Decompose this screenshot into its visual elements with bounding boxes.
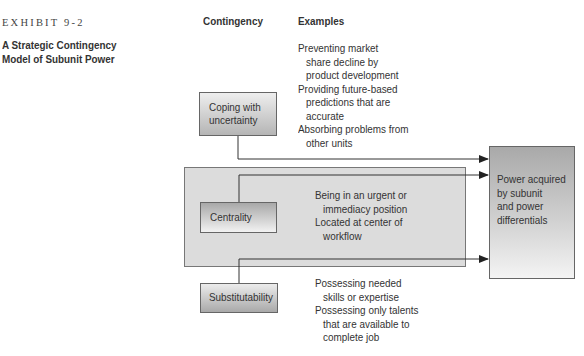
outcome-label: and power: [497, 200, 566, 214]
example-line: share decline by: [298, 56, 409, 70]
example-line: Absorbing problems from: [298, 123, 409, 137]
examples-coping: Preventing market share decline by produ…: [298, 42, 409, 150]
example-line: Possessing needed: [315, 277, 418, 291]
example-line: workflow: [315, 230, 407, 244]
example-line: other units: [298, 137, 409, 151]
contingency-label: uncertainty: [209, 114, 261, 128]
example-line: Preventing market: [298, 42, 409, 56]
contingency-label: Centrality: [210, 211, 252, 225]
example-line: complete job: [315, 331, 418, 345]
outcome-label: by subunit: [497, 187, 566, 201]
example-line: Possessing only talents: [315, 304, 418, 318]
contingency-box-coping: Coping with uncertainty: [199, 92, 277, 136]
example-line: accurate: [298, 110, 409, 124]
contingency-box-substitutability: Substitutability: [200, 283, 278, 313]
outcome-box-power: Power acquired by subunit and power diff…: [489, 146, 575, 279]
example-line: that are available to: [315, 318, 418, 332]
examples-substitutability: Possessing needed skills or expertise Po…: [315, 277, 418, 345]
contingency-box-centrality: Centrality: [200, 202, 277, 233]
example-line: immediacy position: [315, 203, 407, 217]
example-line: product development: [298, 69, 409, 83]
examples-centrality: Being in an urgent or immediacy position…: [315, 189, 407, 243]
example-line: Located at center of: [315, 216, 407, 230]
outcome-label: Power acquired: [497, 173, 566, 187]
example-line: Providing future-based: [298, 83, 409, 97]
contingency-label: Substitutability: [209, 291, 273, 305]
outcome-label: differentials: [497, 214, 566, 228]
example-line: Being in an urgent or: [315, 189, 407, 203]
example-line: skills or expertise: [315, 291, 418, 305]
example-line: predictions that are: [298, 96, 409, 110]
contingency-label: Coping with: [209, 101, 261, 115]
